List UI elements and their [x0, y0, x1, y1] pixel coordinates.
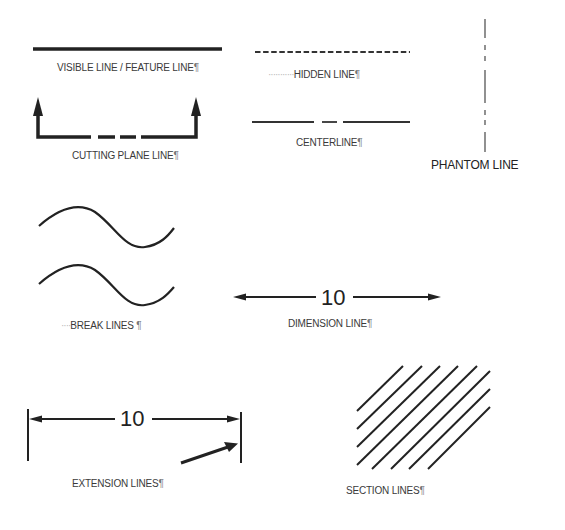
section-lines	[357, 366, 490, 469]
section-lines-label: SECTION LINES¶	[346, 485, 425, 496]
cutting-plane-arrow-right-icon	[191, 97, 201, 116]
break-lines-label: ····BREAK LINES ¶	[61, 320, 141, 331]
break-lines	[39, 207, 174, 305]
cutting-plane-line	[33, 97, 201, 137]
extension-dim-arrow-left-icon	[29, 416, 42, 423]
dimension-arrow-left-icon	[233, 294, 246, 301]
extension-lines-label: EXTENSION LINES¶	[72, 478, 164, 489]
dimension-value: 10	[321, 287, 345, 309]
centerline-label: CENTERLINE¶	[296, 137, 363, 148]
dimension-arrow-right-icon	[428, 294, 441, 301]
cutting-plane-line-label: CUTTING PLANE LINE¶	[72, 150, 179, 161]
leader-line	[181, 447, 228, 463]
visible-line-label: VISIBLE LINE / FEATURE LINE¶	[57, 62, 199, 73]
phantom-line-label: PHANTOM LINE	[431, 158, 518, 172]
cutting-plane-arrow-left-icon	[33, 97, 43, 116]
extension-dim-arrow-right-icon	[227, 416, 240, 423]
extension-dimension-value: 10	[120, 408, 144, 430]
dimension-line-label: DIMENSION LINE¶	[288, 318, 372, 329]
hidden-line-label: ···········HIDDEN LINE¶	[268, 69, 360, 80]
